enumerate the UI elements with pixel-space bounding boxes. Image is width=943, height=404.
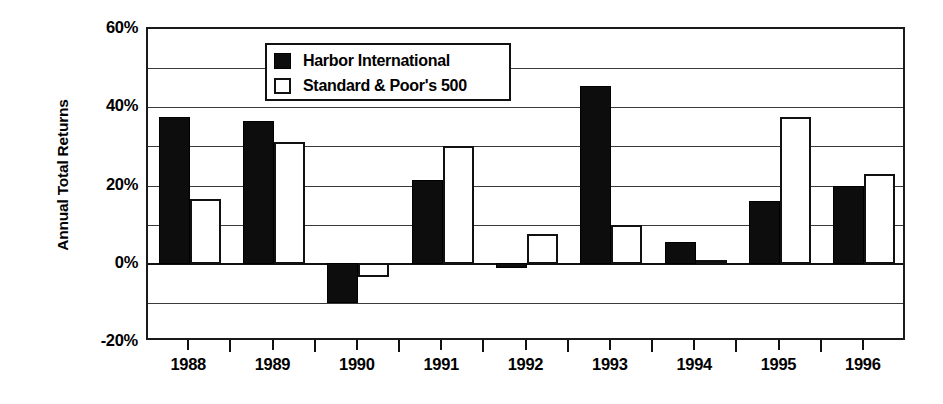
bar-sp500-1989 — [274, 142, 305, 263]
x-axis-tick-label: 1993 — [592, 355, 628, 374]
bar-harbor-international-1996 — [833, 186, 864, 264]
x-axis-tick-center — [609, 340, 611, 350]
legend-item-label: Harbor International — [303, 53, 450, 69]
x-axis-tick — [651, 340, 653, 352]
x-axis-tick-label: 1995 — [761, 355, 797, 374]
bar-sp500-1993 — [611, 225, 642, 264]
chart-legend: Harbor InternationalStandard & Poor's 50… — [265, 43, 511, 101]
x-axis-tick — [229, 340, 231, 352]
x-axis-ticks — [146, 340, 905, 354]
y-axis-tick-label: 60% — [62, 19, 138, 36]
bar-harbor-international-1994 — [665, 242, 696, 264]
bar-sp500-1995 — [780, 117, 811, 264]
legend-item: Harbor International — [274, 48, 503, 73]
legend-item-label: Standard & Poor's 500 — [303, 78, 467, 94]
bar-harbor-international-1995 — [749, 201, 780, 264]
x-axis-tick-center — [187, 340, 189, 350]
x-axis-tick — [398, 340, 400, 352]
x-axis-tick-label: 1992 — [508, 355, 544, 374]
x-axis-tick-label: 1990 — [339, 355, 375, 374]
legend-swatch-filled-square-icon — [274, 53, 291, 69]
x-axis-tick-label: 1988 — [170, 355, 206, 374]
x-axis-tick — [820, 340, 822, 352]
x-axis-tick-label: 1989 — [255, 355, 291, 374]
bar-chart: Annual Total Returns 60%40%20%0%-20% 198… — [0, 0, 943, 404]
bar-harbor-international-1992 — [496, 263, 527, 268]
x-axis-tick-label: 1994 — [676, 355, 712, 374]
bars-layer — [148, 29, 903, 338]
bar-sp500-1996 — [864, 174, 895, 264]
bar-harbor-international-1988 — [159, 117, 190, 264]
y-axis-tick-label: -20% — [62, 332, 138, 349]
x-axis-tick — [314, 340, 316, 352]
x-axis-tick — [735, 340, 737, 352]
bar-harbor-international-1990 — [327, 263, 358, 303]
bar-harbor-international-1993 — [580, 86, 611, 264]
x-axis-tick-labels: 198819891990199119921993199419951996 — [146, 355, 905, 385]
y-axis-tick-labels: 60%40%20%0%-20% — [58, 0, 138, 404]
x-axis-tick-label: 1991 — [423, 355, 459, 374]
x-axis-tick-center — [862, 340, 864, 350]
bar-sp500-1994 — [696, 260, 727, 264]
y-axis-tick-label: 0% — [62, 254, 138, 271]
bar-harbor-international-1989 — [243, 121, 274, 264]
x-axis-tick-label: 1996 — [845, 355, 881, 374]
x-axis-tick-center — [440, 340, 442, 350]
bar-harbor-international-1991 — [412, 180, 443, 264]
x-axis-tick-center — [525, 340, 527, 350]
y-axis-tick-label: 20% — [62, 176, 138, 193]
bar-sp500-1990 — [358, 263, 389, 278]
x-axis-tick-center — [356, 340, 358, 350]
bar-sp500-1988 — [190, 199, 221, 264]
x-axis-tick — [567, 340, 569, 352]
x-axis-tick-center — [693, 340, 695, 350]
plot-area — [146, 27, 905, 340]
x-axis-tick — [482, 340, 484, 352]
legend-swatch-open-square-icon — [274, 78, 291, 94]
legend-item: Standard & Poor's 500 — [274, 73, 503, 98]
bar-sp500-1991 — [443, 146, 474, 263]
bar-sp500-1992 — [527, 234, 558, 263]
y-axis-tick-label: 40% — [62, 97, 138, 114]
x-axis-tick-center — [778, 340, 780, 350]
x-axis-tick-center — [272, 340, 274, 350]
